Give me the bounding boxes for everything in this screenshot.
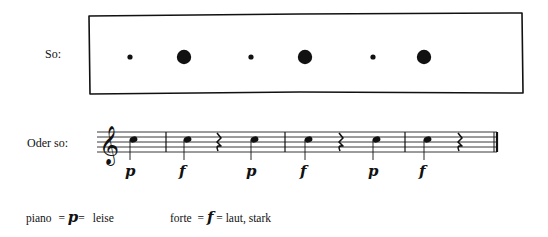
piano-mark: p [246,162,257,180]
notation-figure: 𝄞 pfpfpf [0,0,548,237]
piano-mark: p [368,162,379,180]
piano-dot [248,54,253,59]
legend-forte: forte = f = laut, stark [170,208,271,226]
forte-word: forte [170,212,192,224]
legend-piano: piano = p= leise [26,208,114,226]
piano-mark: p [125,162,136,180]
piano-dot [370,54,375,59]
forte-mark: f [299,162,309,180]
piano-meaning: leise [93,212,114,224]
treble-clef-icon: 𝄞 [99,124,119,166]
piano-symbol: p [68,208,79,226]
forte-symbol: f [207,208,213,226]
forte-meaning: laut, stark [226,212,271,224]
forte-mark: f [418,162,428,180]
piano-dot [127,54,132,59]
forte-dot [298,50,312,64]
dynamics-dots [127,50,431,64]
forte-dot [177,50,191,64]
staff [97,132,497,152]
piano-word: piano [26,212,52,224]
forte-mark: f [178,162,188,180]
forte-dot [417,50,431,64]
